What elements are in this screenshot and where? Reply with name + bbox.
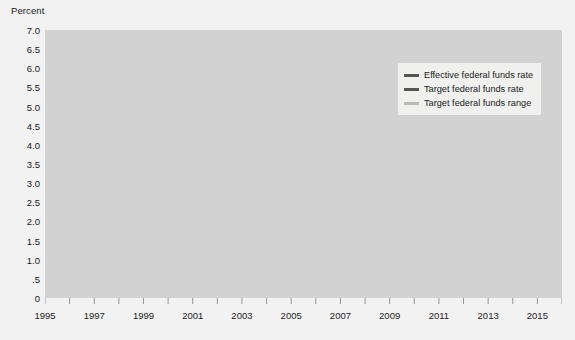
y-axis-tick-label: 1.0 <box>27 254 40 265</box>
legend-item: Target federal funds rate <box>404 82 533 96</box>
y-axis-tick-label: 2.0 <box>27 216 40 227</box>
y-axis-tick-label: 5.0 <box>27 101 40 112</box>
x-axis-tick-label: 1999 <box>133 310 154 321</box>
x-axis-tick-labels: 1995199719992001200320052007200920112013… <box>45 298 562 328</box>
legend-item: Effective federal funds rate <box>404 68 533 82</box>
y-axis-tick-label: 1.5 <box>27 235 40 246</box>
legend-label: Effective federal funds rate <box>424 70 533 80</box>
x-axis-tick-label: 2009 <box>379 310 400 321</box>
y-axis-tick-label: 4.0 <box>27 139 40 150</box>
x-axis-tick-label: 2007 <box>330 310 351 321</box>
y-axis-tick-labels: 7.06.56.05.55.04.54.03.53.02.52.01.51.0.… <box>0 30 40 298</box>
x-axis-tick-label: 2001 <box>182 310 203 321</box>
x-axis-tick-label: 2005 <box>281 310 302 321</box>
chart-legend: Effective federal funds rateTarget feder… <box>398 63 541 115</box>
x-axis-tick-label: 2003 <box>231 310 252 321</box>
x-axis-tick-label: 1997 <box>84 310 105 321</box>
legend-color-swatch <box>404 102 419 105</box>
y-axis-tick-label: 5.5 <box>27 82 40 93</box>
y-axis-tick-label: 4.5 <box>27 120 40 131</box>
y-axis-tick-label: 6.5 <box>27 44 40 55</box>
y-axis-tick-label: 2.5 <box>27 197 40 208</box>
legend-color-swatch <box>404 74 419 77</box>
y-axis-tick-label: 3.5 <box>27 159 40 170</box>
y-axis-tick-label: 0 <box>35 293 40 304</box>
legend-color-swatch <box>404 88 419 91</box>
y-axis-tick-label: 7.0 <box>27 25 40 36</box>
legend-label: Target federal funds range <box>424 98 531 108</box>
legend-label: Target federal funds rate <box>424 84 524 94</box>
y-axis-tick-label: 6.0 <box>27 63 40 74</box>
chart-figure: Percent 7.06.56.05.55.04.54.03.53.02.52.… <box>0 0 575 340</box>
x-axis-ticks <box>45 298 562 308</box>
x-axis-tick-label: 2013 <box>478 310 499 321</box>
y-axis-tick-label: 3.0 <box>27 178 40 189</box>
legend-item: Target federal funds range <box>404 96 533 110</box>
y-axis-tick-label: .5 <box>32 273 40 284</box>
x-axis-tick-label: 1995 <box>34 310 55 321</box>
y-axis-title: Percent <box>11 5 44 16</box>
x-axis-tick-label: 2015 <box>527 310 548 321</box>
x-axis-tick-label: 2011 <box>429 310 449 321</box>
